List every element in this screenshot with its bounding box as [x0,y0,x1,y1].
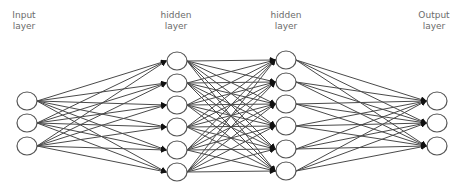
connection-edge [296,60,426,101]
layer-label-output: Output layer [409,10,459,32]
layer-label-line1: hidden [151,10,201,21]
neuron-node-hidden2 [276,73,296,91]
neural-network-diagram [0,0,466,194]
neuron-node-output [427,137,447,155]
neuron-node-hidden1 [167,74,187,92]
connection-edges [37,60,426,172]
connection-edge [187,171,275,172]
neuron-node-hidden1 [167,163,187,181]
connection-edge [187,60,275,83]
neuron-node-hidden2 [276,140,296,158]
layer-label-hidden-2: hidden layer [261,10,311,32]
connection-edge [296,101,426,149]
neuron-node-hidden1 [167,141,187,159]
connection-edge [296,123,426,171]
neuron-node-input [17,92,37,110]
layer-label-line2: layer [151,21,201,32]
layer-label-line1: Output [409,10,459,21]
neuron-node-input [17,114,37,132]
connection-edge [187,104,275,172]
neuron-node-hidden2 [276,95,296,113]
neuron-node-hidden1 [167,52,187,70]
neuron-node-output [427,92,447,110]
layer-label-line2: layer [0,21,49,32]
connection-edge [37,61,166,101]
connection-edge [296,146,426,171]
neuron-node-input [17,137,37,155]
connection-edge [37,61,166,146]
layer-label-line2: layer [261,21,311,32]
layer-label-hidden-1: hidden layer [151,10,201,32]
layer-label-input: Input layer [0,10,49,32]
neuron-node-hidden1 [167,96,187,114]
layer-label-line2: layer [409,21,459,32]
neuron-node-output [427,114,447,132]
neuron-node-hidden2 [276,117,296,135]
neuron-node-hidden1 [167,118,187,136]
neuron-node-hidden2 [276,51,296,69]
layer-label-line1: Input [0,10,49,21]
neuron-node-hidden2 [276,162,296,180]
connection-edge [187,60,275,61]
layer-label-line1: hidden [261,10,311,21]
